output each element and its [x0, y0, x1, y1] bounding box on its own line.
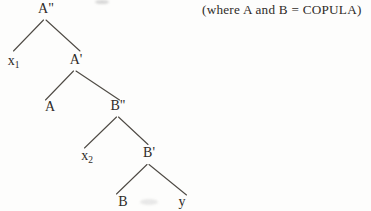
tree-node-x2: x2	[81, 149, 93, 163]
tree-node-a-double-bar: A"	[38, 2, 54, 16]
tree-node-x1: x1	[8, 54, 20, 68]
tree-node-b: B	[118, 195, 127, 209]
tree-node-b-bar: B'	[143, 146, 155, 160]
scanned-tree-figure: A" x1 A' A B" x2 B' B y (where A and B =…	[0, 0, 371, 211]
tree-node-y: y	[179, 195, 186, 209]
edge-adoublebar-x1	[14, 20, 44, 51]
edge-bbar-y	[149, 165, 187, 196]
tree-node-a: A	[45, 100, 55, 114]
tree-node-b-double-bar: B"	[110, 99, 125, 113]
edge-abar-a	[46, 71, 74, 100]
copula-annotation: (where A and B = COPULA)	[202, 3, 362, 18]
edge-abar-bdoublebar	[76, 71, 120, 100]
tree-branch-lines	[0, 0, 371, 211]
scan-artifact	[95, 0, 109, 4]
edge-bbar-b	[117, 165, 148, 195]
edge-adoublebar-abar	[46, 20, 80, 51]
scan-artifact	[140, 199, 158, 205]
edge-bdoublebar-bbar	[119, 117, 149, 145]
tree-node-a-bar: A'	[70, 53, 83, 67]
edge-bdoublebar-x2	[85, 117, 117, 148]
